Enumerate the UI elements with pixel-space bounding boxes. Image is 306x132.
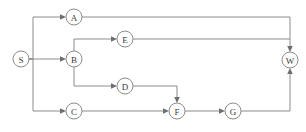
node-layer: S A B C E D bbox=[13, 9, 298, 119]
node-b[interactable]: B bbox=[66, 51, 82, 67]
edge-d-to-f bbox=[133, 86, 177, 100]
arrowhead-s-to-c bbox=[60, 108, 66, 114]
node-d-label: D bbox=[122, 82, 129, 92]
edge-b-to-e bbox=[74, 39, 114, 51]
node-s[interactable]: S bbox=[13, 51, 29, 67]
node-e-label: E bbox=[122, 35, 128, 45]
edge-s-to-c bbox=[29, 59, 63, 111]
graph-svg: S A B C E D bbox=[0, 0, 306, 132]
arrowhead-d-to-f bbox=[174, 97, 180, 103]
arrowhead-s-to-a bbox=[60, 14, 66, 20]
arrowhead-b-to-e bbox=[111, 36, 117, 42]
node-a[interactable]: A bbox=[66, 9, 82, 25]
edge-g-to-w bbox=[241, 71, 290, 111]
edge-s-to-a bbox=[29, 17, 63, 59]
node-a-label: A bbox=[71, 13, 78, 23]
edge-b-to-d bbox=[74, 67, 114, 86]
node-c[interactable]: C bbox=[66, 103, 82, 119]
node-w-label: W bbox=[286, 56, 295, 66]
node-d[interactable]: D bbox=[117, 78, 133, 94]
node-g-label: G bbox=[230, 107, 237, 117]
node-f-label: F bbox=[174, 107, 179, 117]
node-f[interactable]: F bbox=[169, 103, 185, 119]
arrowhead-c-to-f bbox=[163, 108, 169, 114]
node-g[interactable]: G bbox=[225, 103, 241, 119]
diagram-canvas: S A B C E D bbox=[0, 0, 306, 132]
arrowhead-b-to-d bbox=[111, 83, 117, 89]
arrowhead-g-to-w bbox=[287, 68, 293, 74]
node-c-label: C bbox=[71, 107, 77, 117]
node-w[interactable]: W bbox=[282, 52, 298, 68]
arrowhead-f-to-g bbox=[219, 108, 225, 114]
node-b-label: B bbox=[71, 55, 77, 65]
node-e[interactable]: E bbox=[117, 31, 133, 47]
edge-a-to-w bbox=[82, 17, 290, 49]
arrowhead-s-to-b bbox=[60, 56, 66, 62]
arrowhead-a-to-w bbox=[287, 46, 293, 52]
node-s-label: S bbox=[18, 55, 23, 65]
